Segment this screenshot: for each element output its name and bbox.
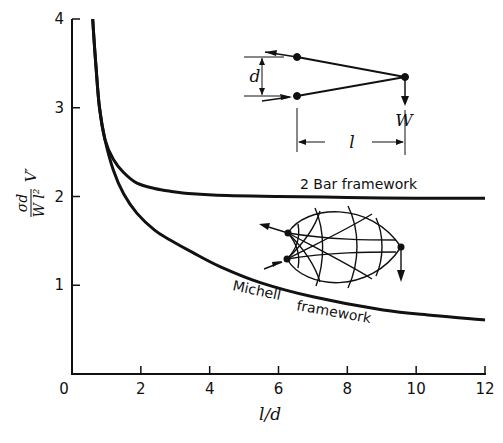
x-axis-label: l/d [259, 404, 281, 424]
michell-curve [93, 19, 485, 320]
chart: 024681012 1234 l/d σd W l² V′ 2 Bar fram… [0, 0, 503, 443]
x-tick-label: 0 [59, 380, 69, 398]
svg-text:W l²: W l² [31, 188, 47, 217]
two-bar-curve [93, 19, 485, 198]
y-tick-label: 4 [54, 10, 64, 28]
y-tick-label: 1 [54, 276, 64, 294]
y-tick-labels: 1234 [54, 10, 64, 294]
x-tick-label: 2 [136, 380, 146, 398]
d-label: d [250, 66, 261, 86]
x-tick-label: 10 [407, 380, 426, 398]
x-tick-labels: 024681012 [59, 380, 494, 398]
l-label: l [349, 132, 354, 152]
two-bar-label: 2 Bar framework [300, 176, 418, 192]
michell-inset [259, 206, 405, 288]
y-tick-label: 2 [54, 188, 64, 206]
two-bar-inset: d W l [244, 50, 414, 155]
x-tick-label: 12 [475, 380, 494, 398]
svg-text:V′: V′ [22, 167, 40, 182]
x-ticks [141, 366, 485, 374]
x-tick-label: 6 [274, 380, 284, 398]
svg-text:σd: σd [14, 194, 30, 213]
x-tick-label: 8 [343, 380, 353, 398]
y-axis-label: σd W l² V′ [14, 167, 47, 217]
x-tick-label: 4 [205, 380, 215, 398]
y-ticks [72, 19, 80, 285]
y-tick-label: 3 [54, 99, 64, 117]
michell-label-1: Michell [231, 277, 282, 303]
